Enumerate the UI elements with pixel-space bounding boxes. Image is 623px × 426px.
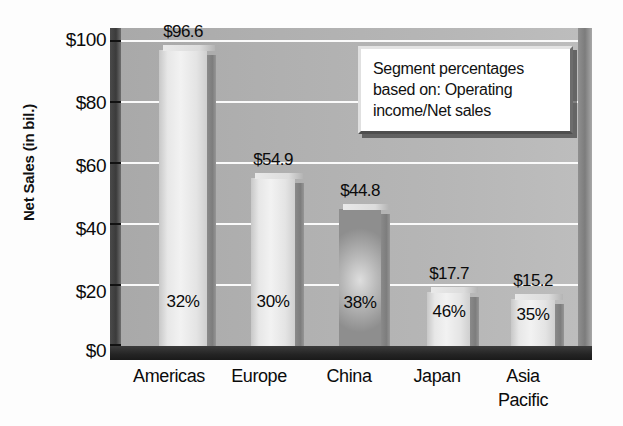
bar-asia-pacific[interactable]: $15.2 35%	[511, 299, 555, 346]
bar-top-europe	[255, 173, 303, 179]
annotation-line-1: Segment percentages	[373, 58, 559, 79]
bar-face-china	[339, 209, 381, 346]
annotation-callout: Segment percentages based on: Operating …	[358, 46, 573, 134]
bar-japan[interactable]: $17.7 46%	[427, 292, 470, 346]
tickmark-0	[110, 344, 121, 346]
y-tick-label-0: $0	[36, 341, 106, 360]
y-axis-tick-labels: $100 $80 $60 $40 $20 $0	[36, 24, 106, 360]
tickmark-20	[110, 284, 121, 286]
x-axis-floor	[110, 346, 592, 360]
bar-percent-asia-pacific: 35%	[478, 305, 588, 325]
x-tick-label-asia-pacific: Asia Pacific	[458, 364, 588, 412]
bar-side-china	[381, 214, 390, 346]
tickmark-60	[110, 162, 121, 164]
bar-top-americas	[163, 45, 215, 51]
bar-china[interactable]: $44.8 38%	[339, 209, 381, 346]
x-tick-label-asia-pacific-line1: Asia	[506, 366, 539, 386]
bar-value-americas: $96.6	[128, 22, 238, 42]
bar-side-europe	[295, 183, 304, 346]
bar-value-europe: $54.9	[218, 150, 328, 170]
tickmark-100	[110, 40, 121, 42]
bar-value-asia-pacific: $15.2	[478, 271, 588, 291]
x-tick-label-asia-pacific-line2: Pacific	[498, 390, 548, 410]
tickmark-80	[110, 101, 121, 103]
x-axis-tick-labels: Americas Europe China Japan Asia Pacific	[110, 364, 610, 424]
bar-top-china	[343, 204, 389, 210]
plot-right-wall	[578, 28, 592, 346]
bar-value-china: $44.8	[305, 181, 415, 201]
bar-top-asia-pacific	[515, 294, 563, 300]
bar-chart: Net Sales (in bil.) $100 $80 $60 $40 $20…	[0, 0, 623, 426]
y-axis-wall	[110, 28, 121, 346]
y-tick-label-80: $80	[36, 93, 106, 112]
annotation-line-2: based on: Operating	[373, 79, 559, 100]
tickmark-40	[110, 223, 121, 225]
y-tick-label-100: $100	[36, 30, 106, 49]
y-tick-label-40: $40	[36, 219, 106, 238]
bar-face-europe	[251, 178, 295, 346]
y-axis-title: Net Sales (in bil.)	[20, 63, 37, 263]
y-tick-label-20: $20	[36, 282, 106, 301]
bar-top-japan	[431, 287, 478, 293]
bar-europe[interactable]: $54.9 30%	[251, 178, 295, 346]
y-tick-label-60: $60	[36, 156, 106, 175]
annotation-line-3: income/Net sales	[373, 100, 559, 121]
bar-americas[interactable]: $96.6 32%	[159, 50, 207, 346]
